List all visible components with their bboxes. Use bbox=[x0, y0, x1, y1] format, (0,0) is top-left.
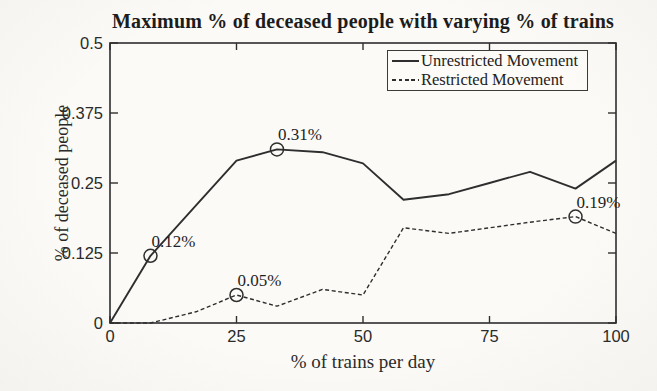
legend-label-unrestricted: Unrestricted Movement bbox=[421, 51, 578, 71]
data-point-label: 0.12% bbox=[151, 232, 195, 251]
x-tick-label: 75 bbox=[480, 327, 498, 345]
y-tick-label: 0 bbox=[94, 314, 103, 332]
dashed-line-swatch-icon bbox=[392, 79, 419, 81]
x-tick-label: 25 bbox=[227, 327, 245, 345]
x-tick-label: 0 bbox=[105, 327, 114, 345]
legend-item-unrestricted: Unrestricted Movement bbox=[392, 52, 585, 70]
x-axis-label: % of trains per day bbox=[110, 351, 616, 373]
data-point-label: 0.19% bbox=[577, 193, 621, 212]
solid-line-swatch-icon bbox=[392, 60, 419, 62]
x-tick-label: 100 bbox=[602, 327, 630, 345]
data-point-label: 0.31% bbox=[278, 125, 322, 144]
legend-label-restricted: Restricted Movement bbox=[421, 70, 564, 90]
legend-item-restricted: Restricted Movement bbox=[392, 71, 585, 89]
y-tick-label: 0.25 bbox=[71, 174, 103, 192]
y-tick-label: 0.5 bbox=[80, 34, 103, 52]
y-tick-label: 0.375 bbox=[62, 104, 103, 122]
data-point-label: 0.05% bbox=[238, 271, 282, 290]
figure: Maximum % of deceased people with varyin… bbox=[0, 0, 657, 391]
x-tick-label: 50 bbox=[354, 327, 372, 345]
data-point-marker bbox=[230, 289, 243, 302]
legend: Unrestricted Movement Restricted Movemen… bbox=[387, 50, 588, 91]
y-tick-label: 0.125 bbox=[62, 244, 103, 262]
